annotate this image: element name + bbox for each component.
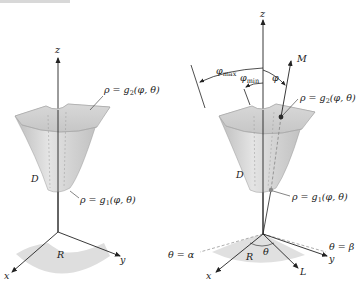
lower-surface-label-left: ρ = g1(φ, θ) (79, 194, 136, 207)
x-label-right: x (206, 270, 212, 281)
theta-label: θ (263, 246, 269, 257)
z-label-right: z (259, 8, 266, 19)
upper-surface-label-right: ρ = g2(φ, θ) (299, 92, 356, 105)
y-label-right: y (328, 253, 335, 264)
lower-surface-label-right: ρ = g1(φ, θ) (291, 191, 348, 204)
region-label-right: R (245, 251, 253, 262)
x-label-left: x (4, 270, 10, 281)
caption-fragment (0, 0, 70, 3)
spherical-integration-diagram: z x y R D ρ = g2(φ, θ) ρ = g1(φ, θ) (0, 0, 362, 290)
region-r-sector-right (212, 234, 305, 263)
theta-beta-label: θ = β (329, 241, 355, 252)
phi-min-ray (244, 89, 250, 105)
phi-min-label: φmin (240, 72, 259, 85)
l-label: L (299, 266, 306, 277)
phi-max-label: φmax (216, 65, 237, 78)
phi-max-ray (191, 65, 205, 108)
left-figure: z x y R D ρ = g2(φ, θ) ρ = g1(φ, θ) (0, 0, 160, 281)
solid-label-left: D (30, 173, 39, 184)
region-label-left: R (56, 249, 64, 260)
phi-label: φ (272, 72, 279, 83)
point-upper-surface (279, 115, 284, 120)
z-label-left: z (54, 44, 61, 55)
theta-alpha-label: θ = α (168, 249, 195, 260)
y-label-left: y (119, 254, 126, 265)
region-r-left (0, 0, 15, 106)
upper-surface-label-left: ρ = g2(φ, θ) (103, 84, 160, 97)
region-r-inner-arc (52, 242, 70, 246)
m-label: M (296, 53, 307, 64)
solid-label-right: D (235, 169, 244, 180)
right-figure: z x y L M φ φmax φmin θ R D θ = α θ = β … (168, 8, 356, 281)
point-lower-surface (269, 188, 273, 192)
